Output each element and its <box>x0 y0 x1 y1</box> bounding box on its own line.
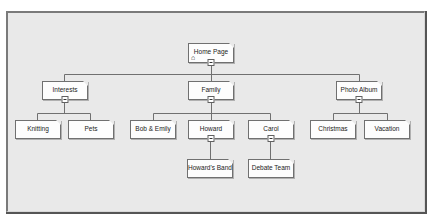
node-label: Photo Album <box>341 86 378 93</box>
node-label: Home Page <box>194 48 228 55</box>
node-bob-emily[interactable]: Bob & Emily <box>130 120 176 139</box>
node-label: Bob & Emily <box>135 125 170 132</box>
node-label: Pets <box>84 125 97 132</box>
node-carol[interactable]: Carol <box>248 120 294 139</box>
node-interests[interactable]: Interests <box>42 81 88 100</box>
node-label: Debate Team <box>252 164 291 171</box>
node-debate-team[interactable]: Debate Team <box>248 159 294 178</box>
node-label: Vacation <box>375 125 400 132</box>
node-home-page[interactable]: Home Page ⌂ <box>188 43 234 63</box>
node-family[interactable]: Family <box>188 81 234 100</box>
collapse-toggle[interactable] <box>208 96 215 103</box>
node-howard[interactable]: Howard <box>188 120 234 139</box>
node-christmas[interactable]: Christmas <box>310 120 356 139</box>
node-label: Howard <box>200 125 222 132</box>
collapse-toggle[interactable] <box>208 135 215 142</box>
node-label: Family <box>201 86 220 93</box>
node-label: Interests <box>53 86 78 93</box>
node-howards-band[interactable]: Howard's Band <box>187 159 233 178</box>
node-knitting[interactable]: Knitting <box>15 120 61 139</box>
node-label: Christmas <box>318 125 347 132</box>
node-label: Howard's Band <box>188 164 232 171</box>
collapse-toggle[interactable] <box>356 96 363 103</box>
connector-lines <box>0 0 432 218</box>
node-pets[interactable]: Pets <box>68 120 114 139</box>
collapse-toggle[interactable] <box>208 59 215 66</box>
collapse-toggle[interactable] <box>62 96 69 103</box>
node-label: Carol <box>263 125 279 132</box>
home-icon: ⌂ <box>191 54 195 61</box>
collapse-toggle[interactable] <box>268 135 275 142</box>
node-vacation[interactable]: Vacation <box>364 120 410 139</box>
node-photo-album[interactable]: Photo Album <box>336 81 382 100</box>
node-label: Knitting <box>27 125 49 132</box>
